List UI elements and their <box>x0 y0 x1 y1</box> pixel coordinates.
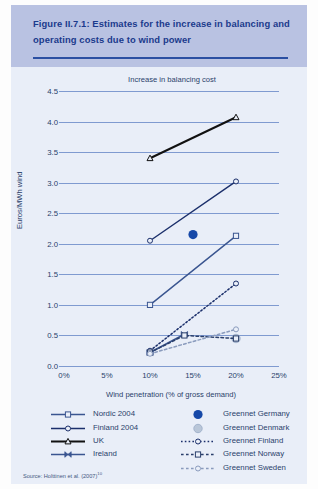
y-tick-label: 1.5 <box>47 270 58 279</box>
legend-item[interactable]: Finland 2004 <box>49 420 138 433</box>
legend-marker-greennet-finland <box>179 434 217 447</box>
data-point-marker <box>182 333 187 338</box>
legend-item[interactable]: UK <box>49 434 138 447</box>
y-tick-label: 4.0 <box>47 117 58 126</box>
series-greennet-germany <box>188 230 197 239</box>
y-tick-label: 2.0 <box>47 239 58 248</box>
data-point-marker <box>148 351 153 356</box>
legend-marker-greennet-norway <box>179 447 217 460</box>
legend-item-label: Greennet Finland <box>223 436 283 445</box>
plot-area: 0.00.51.01.52.02.53.03.54.04.5 0%5%10%15… <box>64 91 279 366</box>
legend-marker-greennet-sweden <box>179 461 217 474</box>
series-nordic-2004 <box>147 233 238 307</box>
series-greennet-finland <box>148 281 239 353</box>
legend-column-right: Greennet GermanyGreennet DenmarkGreennet… <box>179 407 290 474</box>
legend-item-label: Nordic 2004 <box>93 409 135 418</box>
legend-item[interactable]: Ireland <box>49 447 138 460</box>
y-tick-label: 3.5 <box>47 148 58 157</box>
legend-item-label: Finland 2004 <box>93 423 138 432</box>
x-tick-label: 0% <box>58 371 69 380</box>
data-point-marker <box>188 230 197 239</box>
chart-legend: Nordic 2004Finland 2004UKIreland Greenne… <box>11 407 307 465</box>
header-rule <box>33 57 288 59</box>
y-tick-label: 0.5 <box>47 331 58 340</box>
chart-panel: Increase in balancing cost Euros/MWh win… <box>11 67 307 484</box>
legend-marker-nordic-2004 <box>49 407 87 420</box>
series-greennet-norway <box>147 333 238 355</box>
gridline <box>64 366 279 367</box>
data-point-marker <box>65 452 71 458</box>
source-text: Source: Holttinen et al. (2007) <box>23 473 97 479</box>
legend-marker-ireland <box>49 447 87 460</box>
data-point-marker <box>196 466 201 471</box>
legend-item-label: Greennet Sweden <box>223 463 286 472</box>
legend-column-left: Nordic 2004Finland 2004UKIreland <box>49 407 138 461</box>
figure-title: Figure II.7.1: Estimates for the increas… <box>33 16 295 47</box>
x-axis-label: Wind penetration (% of gross demand) <box>11 390 307 399</box>
data-point-marker <box>234 327 239 332</box>
figure-page: Figure II.7.1: Estimates for the increas… <box>0 0 318 489</box>
data-point-marker <box>65 412 70 417</box>
series-uk <box>147 114 239 160</box>
series-layer <box>64 91 279 366</box>
legend-item[interactable]: Nordic 2004 <box>49 407 138 420</box>
data-point-marker <box>234 281 239 286</box>
legend-item-label: Ireland <box>93 449 117 458</box>
x-tick-label: 15% <box>185 371 201 380</box>
legend-marker-finland-2004 <box>49 421 87 434</box>
y-tick-label: 4.5 <box>47 87 58 96</box>
legend-marker-greennet-denmark <box>179 421 217 434</box>
series-line <box>150 117 236 158</box>
y-tick-label: 2.5 <box>47 209 58 218</box>
legend-item[interactable]: Greennet Denmark <box>179 420 290 433</box>
x-tick-label: 25% <box>271 371 287 380</box>
data-point-marker <box>233 114 239 120</box>
data-point-marker <box>148 238 153 243</box>
legend-item[interactable]: Greennet Norway <box>179 447 290 460</box>
data-point-marker <box>233 233 238 238</box>
figure-header-banner: Figure II.7.1: Estimates for the increas… <box>11 5 307 67</box>
legend-item-label: Greennet Denmark <box>223 423 289 432</box>
x-tick-label: 10% <box>142 371 158 380</box>
y-tick-label: 3.0 <box>47 178 58 187</box>
legend-marker-uk <box>49 434 87 447</box>
source-footnote-marker: 10 <box>97 471 102 476</box>
x-tick-label: 20% <box>228 371 244 380</box>
y-tick-label: 1.0 <box>47 300 58 309</box>
series-line <box>150 284 236 351</box>
legend-item-label: Greennet Norway <box>223 449 284 458</box>
data-point-marker <box>147 302 152 307</box>
data-point-marker <box>233 336 238 341</box>
legend-item-label: UK <box>93 436 104 445</box>
data-point-marker <box>195 452 200 457</box>
legend-item[interactable]: Greennet Sweden <box>179 461 290 474</box>
x-tick-label: 5% <box>101 371 112 380</box>
legend-item[interactable]: Greennet Germany <box>179 407 290 420</box>
series-greennet-sweden <box>148 327 239 356</box>
data-point-marker <box>194 424 202 432</box>
y-axis-label: Euros/MWh wind <box>15 172 24 229</box>
data-point-marker <box>66 426 71 431</box>
source-note: Source: Holttinen et al. (2007)10 <box>23 471 102 479</box>
legend-marker-greennet-germany <box>179 407 217 420</box>
legend-item[interactable]: Greennet Finland <box>179 434 290 447</box>
y-tick-label: 0.0 <box>47 362 58 371</box>
y-tick-mark <box>59 366 64 367</box>
series-line <box>150 335 236 352</box>
data-point-marker <box>193 410 202 419</box>
data-point-marker <box>234 179 239 184</box>
data-point-marker <box>196 439 201 444</box>
plot-title: Increase in balancing cost <box>11 75 307 84</box>
legend-item-label: Greennet Germany <box>223 409 290 418</box>
